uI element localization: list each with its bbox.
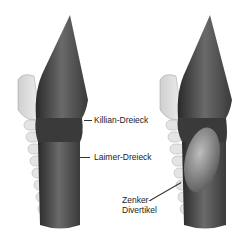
label-zenker-line1: Zenker- xyxy=(122,195,157,205)
constrictor-muscle xyxy=(178,15,232,118)
label-killian-dreieck: Killian-Dreieck xyxy=(94,115,148,125)
esophagus xyxy=(38,142,80,229)
left-panel xyxy=(18,15,88,229)
constrictor-muscle xyxy=(36,15,88,118)
laimer-leader-line xyxy=(80,157,90,158)
cricopharyngeus xyxy=(35,118,82,142)
right-panel xyxy=(160,15,232,229)
killian-leader-line xyxy=(84,120,92,121)
label-zenker-divertikel: Zenker- Divertikel xyxy=(122,195,157,215)
label-laimer-dreieck: Laimer-Dreieck xyxy=(94,152,152,162)
label-zenker-line2: Divertikel xyxy=(122,205,157,215)
